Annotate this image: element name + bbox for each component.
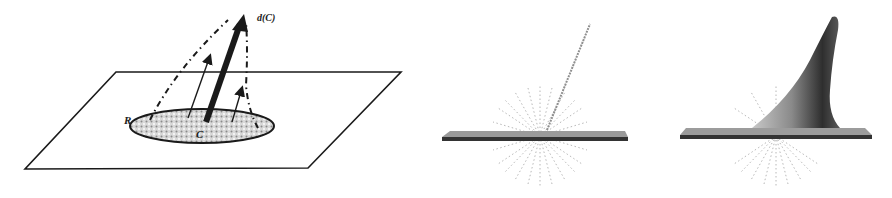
schematic-diagram: R C d(C) <box>0 0 420 198</box>
label-r: R <box>123 114 131 126</box>
spike-surface <box>752 17 840 128</box>
plate-spike-rendering <box>660 0 892 198</box>
plate-edge <box>680 135 872 139</box>
arrowhead-d-c <box>232 14 248 32</box>
panel-c-rendering <box>660 0 892 198</box>
vector-d-c <box>206 24 240 122</box>
envelope-left <box>150 20 228 120</box>
thread-line <box>547 24 590 130</box>
plate-edge <box>442 137 628 141</box>
plate-top <box>680 128 872 135</box>
panel-b-rendering <box>430 0 650 198</box>
plate-thread-rendering <box>430 0 650 198</box>
panel-a-schematic: R C d(C) <box>0 0 420 198</box>
label-d-c: d(C) <box>257 12 275 24</box>
label-c: C <box>196 128 204 140</box>
plate-top <box>442 131 628 137</box>
